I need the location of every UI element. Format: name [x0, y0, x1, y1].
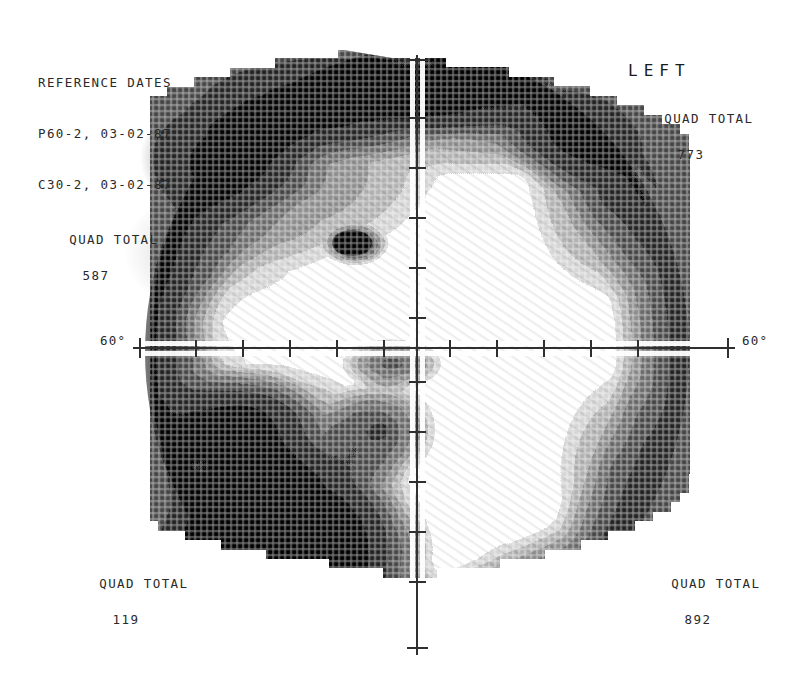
quad-total-upper-right-label: QUAD TOTAL — [664, 111, 753, 126]
quad-total-lower-left-value: 119 — [62, 611, 190, 629]
reference-dates-title: REFERENCE DATES — [38, 74, 172, 91]
quad-total-lower-right-label: QUAD TOTAL — [671, 576, 760, 591]
field-greyscale-region — [124, 50, 690, 666]
reference-dates-block: REFERENCE DATES P60-2, 03-02-87 C30-2, 0… — [38, 40, 172, 227]
reference-date-c30: C30-2, 03-02-87 — [38, 176, 172, 193]
quad-total-upper-right: QUAD TOTAL 773 — [627, 92, 755, 200]
quad-total-upper-left-value: 587 — [32, 267, 160, 285]
quad-total-upper-left: QUAD TOTAL 587 — [32, 213, 160, 321]
quad-total-upper-right-value: 773 — [627, 146, 755, 164]
quad-total-lower-left-label: QUAD TOTAL — [99, 576, 188, 591]
axis-label-right-60deg: 60° — [742, 333, 768, 348]
quad-total-lower-left: QUAD TOTAL 119 — [62, 557, 190, 665]
quad-total-upper-left-label: QUAD TOTAL — [69, 232, 158, 247]
reference-date-p60: P60-2, 03-02-87 — [38, 125, 172, 142]
eye-label: LEFT — [628, 62, 691, 79]
axis-label-left-60deg: 60° — [100, 333, 126, 348]
quad-total-lower-right-value: 892 — [634, 611, 762, 629]
quad-total-lower-right: QUAD TOTAL 892 — [634, 557, 762, 665]
printout-sheet: REFERENCE DATES P60-2, 03-02-87 C30-2, 0… — [0, 0, 805, 694]
